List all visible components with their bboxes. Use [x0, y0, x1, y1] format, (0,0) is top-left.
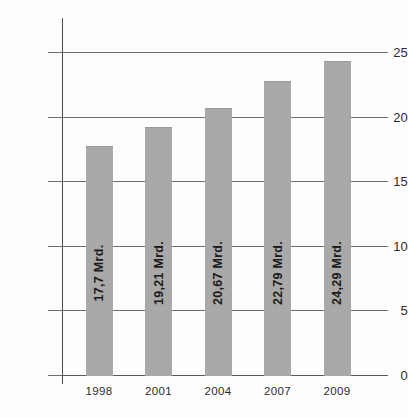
bar-value-label: 20,67 Mrd. [211, 241, 225, 305]
y-tick-mark [48, 246, 62, 247]
y-tick-label: 15 [364, 174, 408, 189]
bar-value-label: 19,21 Mrd. [152, 241, 166, 305]
y-tick-label: 10 [364, 238, 408, 253]
bar: 17,7 Mrd. [86, 146, 113, 376]
x-tick-label: 2007 [248, 385, 308, 397]
y-tick-label: 0 [364, 368, 408, 383]
y-tick-mark [48, 181, 62, 182]
x-tick-label: 2004 [188, 385, 248, 397]
y-axis-line [62, 18, 63, 384]
gridline [62, 52, 388, 53]
y-tick-label: 5 [364, 303, 408, 318]
y-tick-mark [48, 117, 62, 118]
bar: 19,21 Mrd. [145, 127, 172, 376]
bar: 24,29 Mrd. [324, 61, 351, 376]
y-tick-mark [48, 310, 62, 311]
bar: 22,79 Mrd. [264, 81, 291, 376]
bar-value-label: 24,29 Mrd. [330, 241, 344, 305]
x-tick-label: 2001 [129, 385, 189, 397]
x-tick-label: 2009 [307, 385, 367, 397]
bar: 20,67 Mrd. [205, 108, 232, 376]
bar-value-label: 22,79 Mrd. [271, 241, 285, 305]
y-tick-label: 20 [364, 109, 408, 124]
x-tick-label: 1998 [69, 385, 129, 397]
bar-value-label: 17,7 Mrd. [92, 245, 106, 302]
y-tick-mark [48, 375, 62, 376]
y-tick-mark [48, 52, 62, 53]
y-tick-label: 25 [364, 45, 408, 60]
bar-chart: 0510152025 17,7 Mrd.19,21 Mrd.20,67 Mrd.… [0, 0, 408, 417]
